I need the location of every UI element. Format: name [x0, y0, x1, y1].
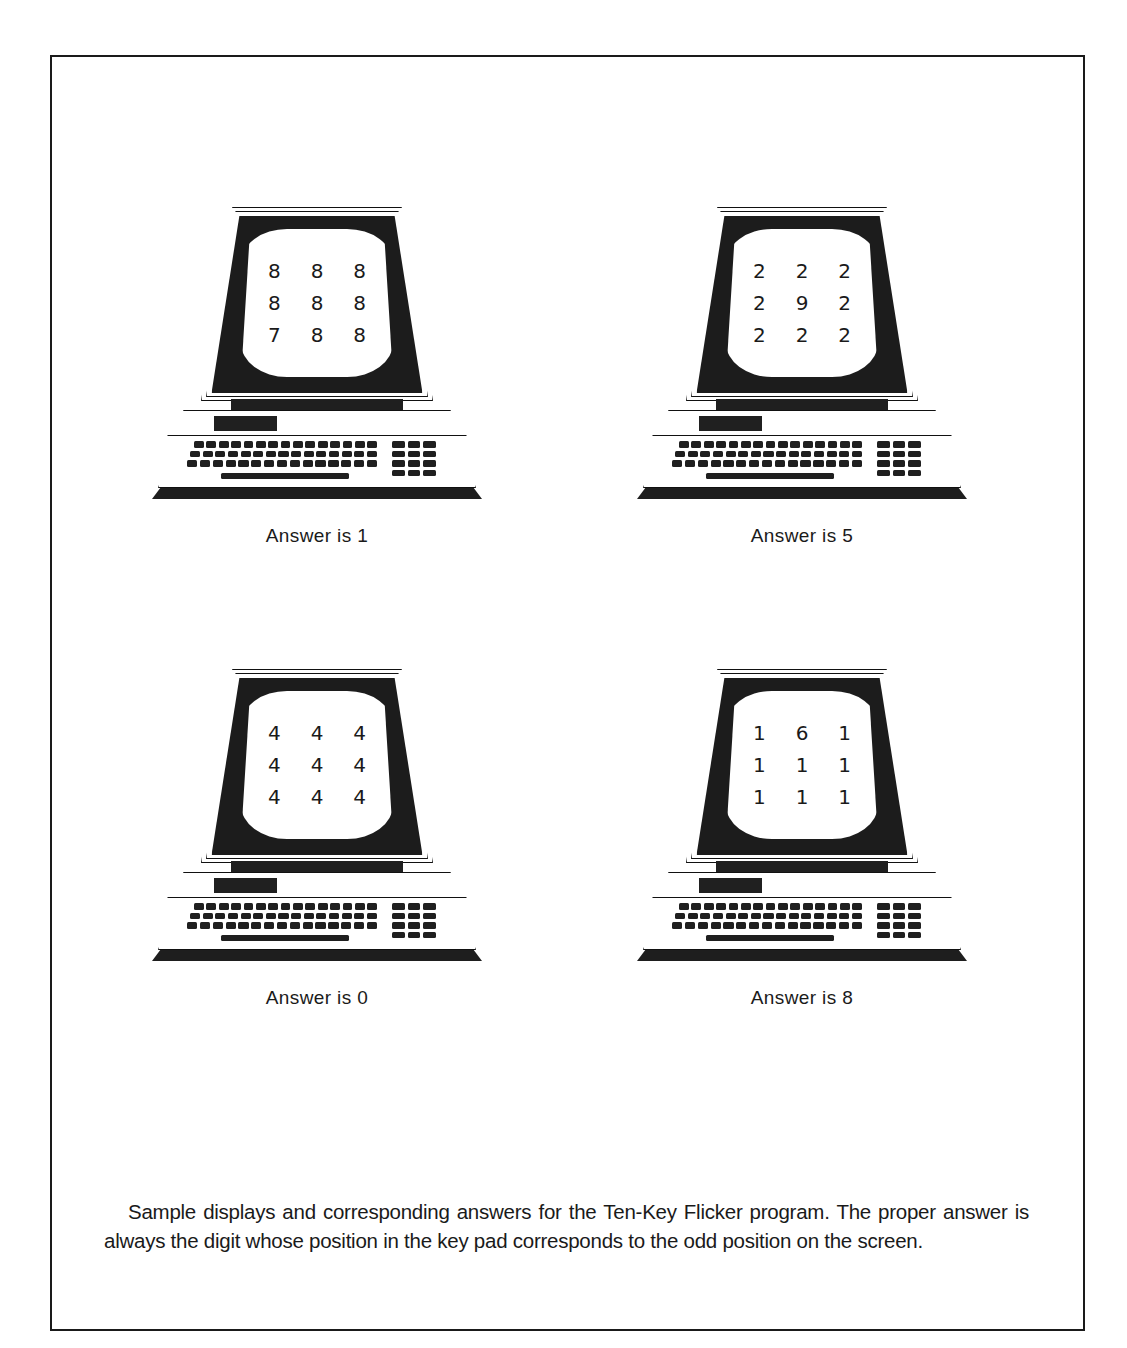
screen-digit-grid: 222292222 [738, 255, 866, 351]
screen-digit: 8 [311, 261, 324, 281]
keyboard-key [852, 441, 862, 448]
numeric-key-pad-row [392, 441, 436, 448]
numeric-key-pad-key [392, 922, 405, 929]
numeric-key-pad-key [423, 922, 436, 929]
numeric-key-pad-row [877, 451, 921, 458]
numeric-key-pad-row [392, 913, 436, 920]
keyboard-key [685, 460, 695, 467]
keyboard-key [788, 460, 798, 467]
screen-digit: 4 [268, 723, 281, 743]
keyboard-key [753, 441, 763, 448]
screen-digit: 8 [311, 293, 324, 313]
numeric-key-pad-key [908, 922, 921, 929]
keyboard-key [238, 460, 248, 467]
figure-page: 888888788Answer is 1222292222Answer is 5… [0, 0, 1127, 1348]
keyboard-key [763, 913, 773, 920]
keyboard-key [685, 922, 695, 929]
answer-label: Answer is 1 [82, 525, 552, 547]
keyboard-front-lip [152, 950, 482, 961]
keyboard-key [700, 913, 710, 920]
numeric-key-pad-key [392, 932, 405, 939]
keyboard-key [367, 903, 377, 910]
computer-unit: 444444444Answer is 0 [82, 669, 552, 1089]
keyboard-key [194, 903, 204, 910]
numeric-key-pad-key [408, 932, 421, 939]
keyboard-key [277, 460, 287, 467]
keyboard-deck-divider [653, 897, 952, 898]
keyboard-badge-plate [699, 416, 762, 431]
keyboard-key [852, 903, 862, 910]
screen-digit: 4 [353, 787, 366, 807]
numeric-key-pad-key [392, 441, 405, 448]
keyboard-key [241, 451, 251, 458]
numeric-key-pad-row [877, 922, 921, 929]
keyboard-key [187, 922, 197, 929]
numeric-key-pad-key [893, 913, 906, 920]
keyboard-key [852, 922, 862, 929]
keyboard-key [256, 441, 266, 448]
keyboard-key [291, 913, 301, 920]
screen-digit: 2 [753, 325, 766, 345]
keyboard-key [801, 913, 811, 920]
keyboard-key [342, 451, 352, 458]
keyboard-key [213, 922, 223, 929]
keyboard-front-lip [152, 488, 482, 499]
keyboard-key [266, 451, 276, 458]
keyboard-key [318, 441, 328, 448]
keyboard-key [206, 903, 216, 910]
monitor-pedestal [231, 861, 403, 872]
keyboard-key [328, 922, 338, 929]
keyboard-front-lip [637, 950, 967, 961]
keyboard-main-keys [672, 441, 862, 479]
numeric-key-pad-key [908, 932, 921, 939]
keyboard-key [762, 922, 772, 929]
screen-digit: 2 [838, 325, 851, 345]
keyboard-key [315, 922, 325, 929]
numeric-key-pad-key [392, 451, 405, 458]
keyboard-badge-plate [214, 416, 277, 431]
numeric-key-pad-row [392, 470, 436, 477]
numeric-key-pad-key [408, 913, 421, 920]
keyboard-key [691, 903, 701, 910]
keyboard-key [264, 460, 274, 467]
keyboard-key [700, 451, 710, 458]
keyboard-key [215, 451, 225, 458]
figure-caption: Sample displays and corresponding answer… [104, 1197, 1029, 1255]
keyboard-key [228, 913, 238, 920]
numeric-key-pad-key [877, 451, 890, 458]
keyboard-key [343, 903, 353, 910]
keyboard-front-lip [637, 488, 967, 499]
keyboard-deck-divider [168, 897, 467, 898]
keyboard-key [713, 913, 723, 920]
keyboard-key-row [679, 903, 862, 910]
screen-digit: 1 [838, 755, 851, 775]
keyboard-key [751, 451, 761, 458]
keyboard-key [698, 460, 708, 467]
numeric-key-pad-row [877, 441, 921, 448]
keyboard-deck-divider [653, 435, 952, 436]
keyboard-key [826, 460, 836, 467]
keyboard-key [688, 451, 698, 458]
keyboard-key [723, 922, 733, 929]
keyboard-key [672, 460, 682, 467]
numeric-key-pad-key [408, 460, 421, 467]
numeric-key-pad-row [877, 460, 921, 467]
keyboard-key [341, 922, 351, 929]
numeric-key-pad [392, 903, 436, 938]
keyboard-key [226, 460, 236, 467]
keyboard-key [244, 441, 254, 448]
keyboard-key [814, 913, 824, 920]
keyboard-key [305, 903, 315, 910]
keyboard-key [278, 451, 288, 458]
screen-digit-grid: 161111111 [738, 717, 866, 813]
numeric-key-pad [877, 441, 921, 476]
keyboard-key [766, 903, 776, 910]
screen-digit: 1 [838, 787, 851, 807]
keyboard-key-row [187, 922, 377, 929]
keyboard-key [711, 460, 721, 467]
numeric-key-pad-key [877, 932, 890, 939]
keyboard-key [194, 441, 204, 448]
keyboard-key-row [190, 913, 377, 920]
screen-digit: 2 [796, 261, 809, 281]
screen-digit: 8 [353, 325, 366, 345]
